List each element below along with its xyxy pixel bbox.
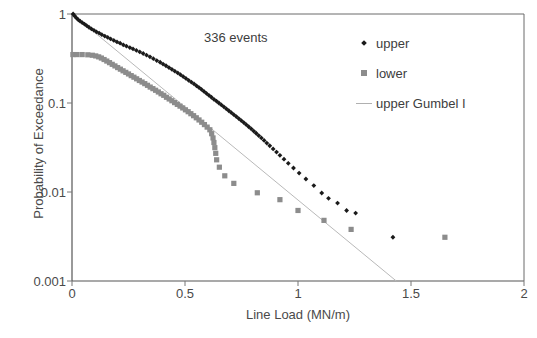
legend-item-lower: lower [352,58,517,88]
legend-label: upper [376,36,409,51]
x-tick-label: 1 [294,286,301,301]
x-axis-title: Line Load (MN/m) [72,307,524,322]
x-tick-label: 0.5 [176,286,194,301]
x-tick-label: 0 [68,286,75,301]
legend-item-upper-gumbel: upper Gumbel I [352,88,517,118]
x-tick-label: 2 [520,286,527,301]
line-marker-icon [352,103,376,104]
legend-label: lower [376,66,407,81]
diamond-marker-icon [352,41,376,45]
chart-figure: 1 0.1 0.01 0.001 Probability of Exceedan… [0,0,537,338]
chart-legend: upper lower upper Gumbel I [352,28,517,118]
x-tick-label: 1.5 [402,286,420,301]
cropped-caption-sliver [34,330,504,338]
series-upper-points [71,12,396,240]
legend-item-upper: upper [352,28,517,58]
legend-label: upper Gumbel I [376,96,466,111]
events-annotation: 336 events [204,30,268,45]
square-marker-icon [352,70,376,76]
